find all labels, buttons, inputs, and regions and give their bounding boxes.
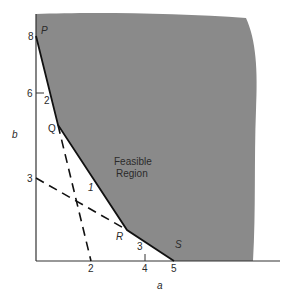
x-tick-label-5: 5 [171,263,177,274]
x-tick-label-4: 4 [142,263,148,274]
vertex-label-s: S [175,239,182,250]
y-tick-label-8: 8 [28,31,34,42]
y-tick-label-6: 6 [27,88,33,99]
x-tick-label-2: 2 [88,263,94,274]
vertex-label-q: Q [48,123,56,134]
feasible-region-diagram: 8 6 3 2 4 5 b a P Q R S 2 1 3 Feasible R… [0,0,289,299]
segment-label-1: 1 [88,182,94,193]
y-axis-label: b [12,129,18,140]
feasible-region-label-line2: Region [116,168,148,179]
feasible-region [36,13,257,261]
vertex-label-r: R [116,231,123,242]
y-tick-label-3: 3 [27,173,33,184]
x-axis-label: a [157,280,163,291]
segment-label-3: 3 [137,241,143,252]
segment-label-2: 2 [44,95,50,106]
feasible-region-label-line1: Feasible [114,156,152,167]
vertex-label-p: P [41,25,48,36]
